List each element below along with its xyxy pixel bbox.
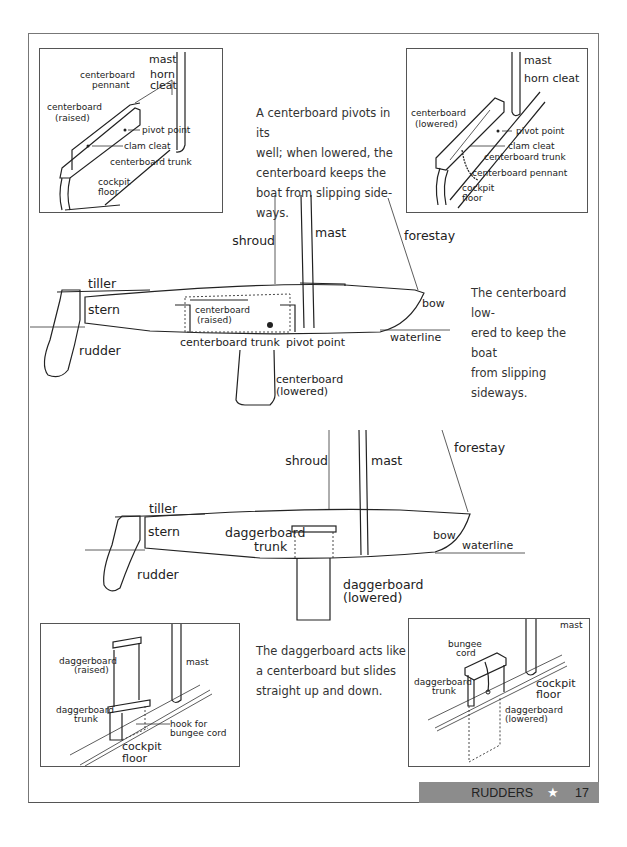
- illustration-daggerboard-lowered: mast bungee cord daggerboard trunk cockp…: [0, 0, 627, 847]
- label-mast: mast: [560, 620, 583, 630]
- label-daggerboard-lowered-2: (lowered): [505, 714, 548, 724]
- section-title: RUDDERS: [471, 786, 533, 800]
- label-daggerboard-trunk-2: trunk: [432, 686, 457, 696]
- page-footer: RUDDERS ★ 17: [419, 782, 599, 803]
- star-icon: ★: [547, 785, 559, 800]
- label-cockpit-floor-2: floor: [536, 688, 561, 701]
- page-number: 17: [575, 786, 589, 800]
- label-bungee-cord-2: cord: [456, 648, 476, 658]
